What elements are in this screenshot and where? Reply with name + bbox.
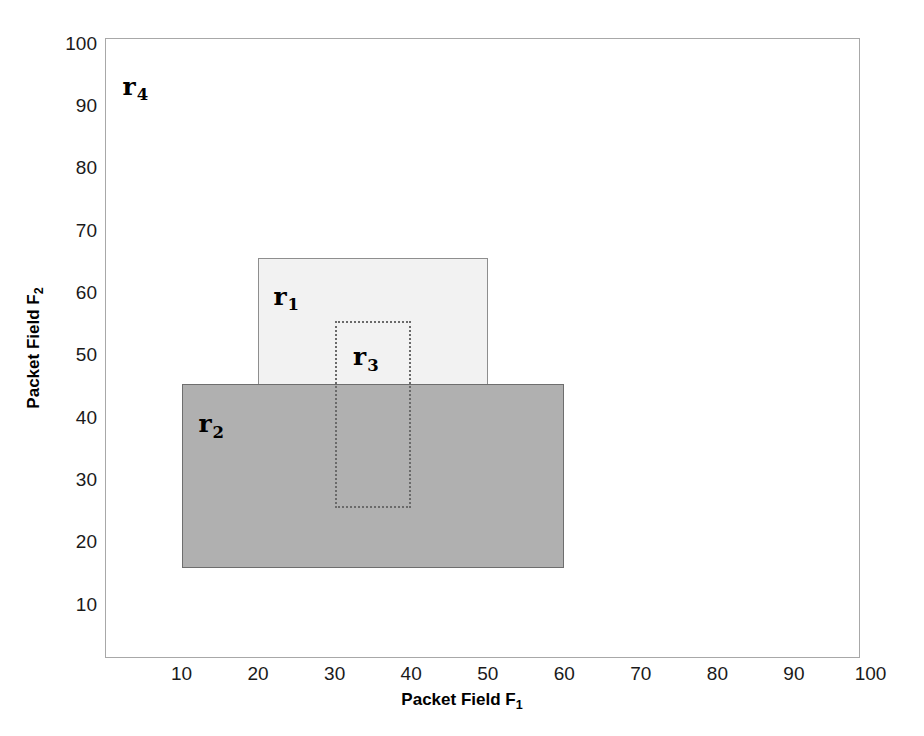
region-label-r3-text: r: [353, 342, 366, 371]
y-tick-label-80: 80: [76, 157, 97, 179]
x-tick-label-30: 30: [324, 663, 345, 685]
x-axis-title: Packet Field F1: [401, 690, 522, 710]
figure-canvas: 102030405060708090100 102030405060708090…: [0, 0, 924, 736]
x-tick-label-100: 100: [855, 663, 887, 685]
y-tick-label-70: 70: [76, 220, 97, 242]
x-tick-label-70: 70: [630, 663, 651, 685]
region-label-r4-text: r: [123, 72, 136, 101]
region-label-r2-subscript: 2: [213, 423, 224, 442]
y-tick-label-30: 30: [76, 469, 97, 491]
y-axis-title: Packet Field F2: [24, 287, 44, 408]
y-tick-label-50: 50: [76, 344, 97, 366]
x-tick-label-60: 60: [554, 663, 575, 685]
region-label-r3-subscript: 3: [367, 356, 378, 375]
region-label-r1: r1: [273, 284, 298, 309]
region-label-r2-text: r: [198, 409, 211, 438]
x-tick-label-50: 50: [477, 663, 498, 685]
x-tick-label-10: 10: [171, 663, 192, 685]
x-axis-title-subscript: 1: [516, 698, 523, 712]
plot-data-area: [105, 38, 860, 658]
y-tick-label-10: 10: [76, 594, 97, 616]
y-axis-title-subscript: 2: [32, 287, 46, 294]
y-axis-title-text: Packet Field F: [24, 294, 43, 408]
region-label-r3: r3: [353, 344, 378, 369]
region-label-r1-text: r: [273, 282, 286, 311]
x-tick-label-40: 40: [401, 663, 422, 685]
y-tick-label-100: 100: [65, 33, 97, 55]
region-label-r4-subscript: 4: [137, 85, 148, 104]
y-tick-label-20: 20: [76, 531, 97, 553]
y-tick-label-90: 90: [76, 95, 97, 117]
x-tick-label-20: 20: [248, 663, 269, 685]
x-tick-label-80: 80: [707, 663, 728, 685]
x-axis-title-text: Packet Field F: [401, 690, 515, 709]
y-tick-label-60: 60: [76, 282, 97, 304]
region-label-r4: r4: [123, 74, 148, 99]
region-label-r1-subscript: 1: [288, 295, 299, 314]
y-tick-label-40: 40: [76, 407, 97, 429]
x-tick-label-90: 90: [783, 663, 804, 685]
region-label-r2: r2: [198, 411, 223, 436]
